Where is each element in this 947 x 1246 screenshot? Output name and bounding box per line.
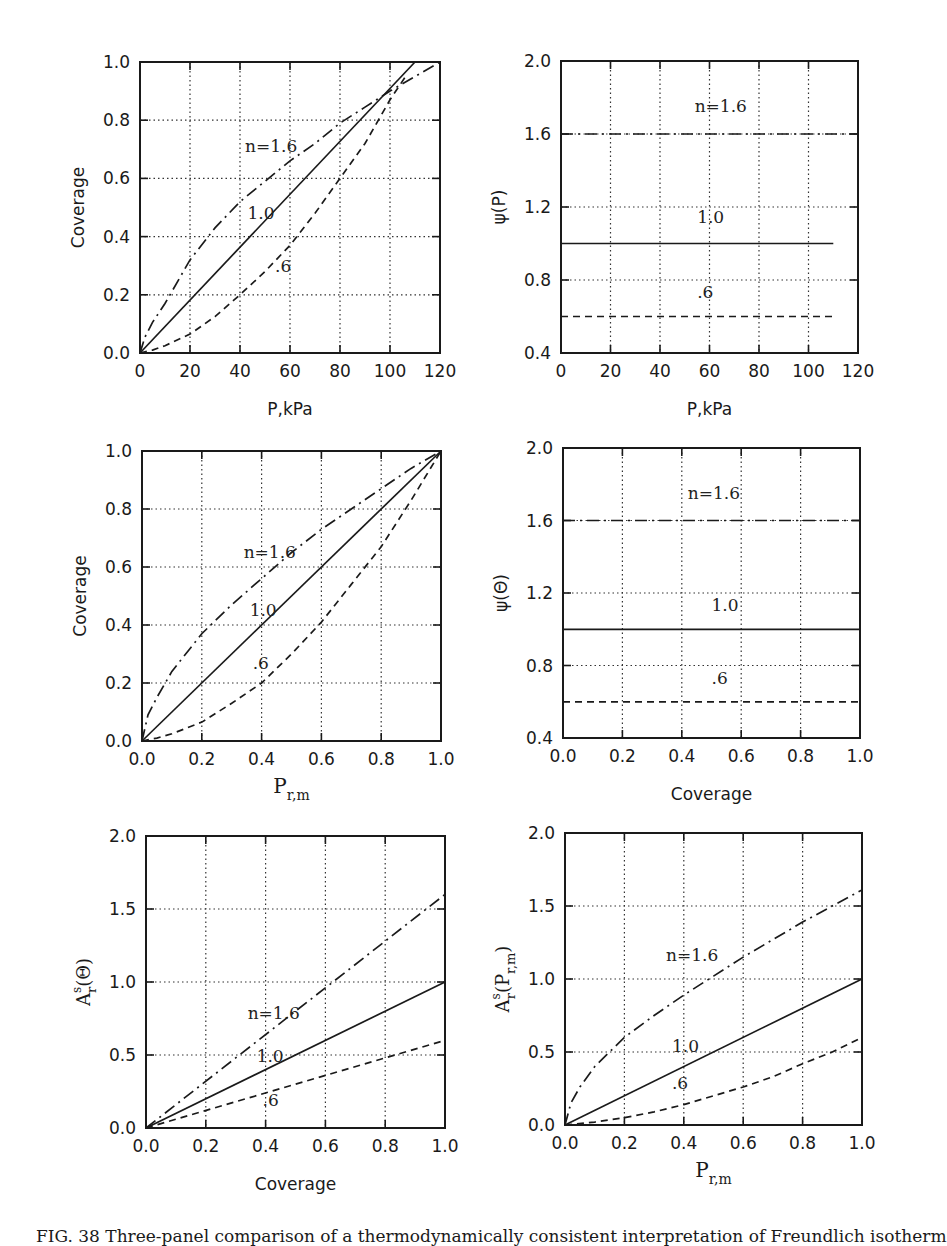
x-axis-label: Pr,m [695,1158,731,1187]
curve-label-n16: n=1.6 [695,96,747,116]
y-tick-label: 0.8 [105,499,132,519]
x-tick-label: 0.0 [549,746,576,766]
y-axis-label: Asr(Θ) [70,958,99,1007]
y-tick-label: 0.0 [105,731,132,751]
figure-caption: FIG. 38 Three-panel comparison of a ther… [36,1226,936,1246]
chart-panel-p5: 0.00.20.40.60.81.00.00.51.01.52.0Coverag… [70,826,459,1194]
x-tick-label: 0.0 [132,1136,159,1156]
series-line-6 [565,1037,862,1125]
x-tick-label: 1.0 [848,1133,875,1153]
x-tick-label: 120 [424,361,456,381]
chart-panel-p3: 0.00.20.40.60.81.00.00.20.40.60.81.0Pr,m… [70,441,455,803]
curve-label-n10: 1.0 [257,1046,284,1066]
x-tick-label: 0.6 [728,746,755,766]
curve-label-n16: n=1.6 [245,136,297,156]
x-tick-label: 0.2 [609,746,636,766]
gridlines [565,833,862,1125]
y-tick-label: 0.4 [524,343,551,363]
y-tick-label: 0.5 [528,1042,555,1062]
x-tick-label: 0.6 [312,1136,339,1156]
curve-label-n06: .6 [275,256,291,276]
y-tick-label: 1.2 [526,583,553,603]
y-tick-label: 0.8 [526,656,553,676]
x-tick-label: 20 [179,361,201,381]
y-tick-label: 0.4 [105,615,132,635]
x-tick-label: 60 [279,361,301,381]
curve-label-n06: .6 [697,282,713,302]
series-line-6 [146,1040,445,1128]
x-tick-label: 80 [329,361,351,381]
x-tick-label: 1.0 [427,749,454,769]
x-tick-label: 0.6 [730,1133,757,1153]
chart-panel-p6: 0.00.20.40.60.81.00.00.51.01.52.0Pr,mAsr… [489,823,876,1187]
series-line-10 [142,451,441,741]
curve-label-n10: 1.0 [697,207,724,227]
curve-label-n16: n=1.6 [688,483,740,503]
x-tick-label: 0.8 [789,1133,816,1153]
series-line-10 [140,62,415,353]
x-tick-label: 120 [842,361,874,381]
x-tick-label: 60 [699,361,721,381]
x-tick-label: 0 [556,361,567,381]
gridlines [146,836,445,1128]
x-tick-label: 0.4 [668,746,695,766]
y-axis-label: ψ(Θ) [491,574,511,612]
y-tick-label: 2.0 [528,823,555,843]
x-tick-label: 0.2 [611,1133,638,1153]
y-axis-label: ψ(P) [489,190,509,225]
x-tick-label: 0.2 [192,1136,219,1156]
y-tick-label: 1.0 [105,441,132,461]
x-tick-label: 0 [135,361,146,381]
curve-label-n16: n=1.6 [666,945,718,965]
x-axis-label: Coverage [671,784,752,804]
y-tick-label: 1.0 [109,972,136,992]
x-tick-label: 0.2 [188,749,215,769]
y-axis-label: Coverage [68,167,88,248]
x-tick-label: 1.0 [431,1136,458,1156]
x-tick-label: 100 [792,361,824,381]
x-tick-label: 40 [649,361,671,381]
y-tick-label: 0.8 [524,270,551,290]
x-tick-label: 0.4 [252,1136,279,1156]
y-tick-label: 0.0 [103,343,130,363]
y-tick-label: 1.6 [526,511,553,531]
y-tick-label: 2.0 [524,51,551,71]
curve-label-n06: .6 [253,653,269,673]
curve-label-n16: n=1.6 [248,1003,300,1023]
x-axis-label: Pr,m [273,774,309,803]
y-tick-label: 2.0 [526,438,553,458]
curve-label-n06: .6 [672,1073,688,1093]
chart-panel-p4: 0.00.20.40.60.81.00.40.81.21.62.0Coverag… [491,438,874,804]
y-tick-label: 0.2 [105,673,132,693]
y-tick-label: 0.2 [103,285,130,305]
y-tick-label: 0.6 [105,557,132,577]
y-tick-label: 1.6 [524,124,551,144]
curve-label-n10: 1.0 [248,203,275,223]
x-tick-label: 40 [229,361,251,381]
y-tick-label: 1.2 [524,197,551,217]
series-line-n16 [565,890,862,1125]
x-tick-label: 0.0 [128,749,155,769]
x-tick-label: 0.8 [787,746,814,766]
y-tick-label: 0.5 [109,1045,136,1065]
y-axis-label: Coverage [70,555,90,636]
y-tick-label: 0.0 [528,1115,555,1135]
gridlines [140,62,440,353]
x-tick-label: 20 [600,361,622,381]
x-tick-label: 0.0 [551,1133,578,1153]
y-tick-label: 0.4 [103,227,130,247]
curve-label-n10: 1.0 [672,1036,699,1056]
y-tick-label: 1.5 [109,899,136,919]
x-tick-label: 1.0 [846,746,873,766]
y-tick-label: 1.0 [528,969,555,989]
x-tick-label: 80 [748,361,770,381]
y-tick-label: 0.4 [526,728,553,748]
curve-label-n06: .6 [712,668,728,688]
curve-label-n06: .6 [263,1090,279,1110]
x-axis-label: Coverage [255,1174,336,1194]
chart-panel-p1: 0204060801001200.00.20.40.60.81.0P,kPaCo… [68,52,456,419]
curve-label-n10: 1.0 [250,600,277,620]
y-tick-label: 1.0 [103,52,130,72]
y-tick-label: 0.8 [103,110,130,130]
curve-label-n10: 1.0 [712,595,739,615]
